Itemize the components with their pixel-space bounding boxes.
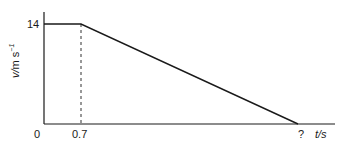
x-tick-0: 0	[34, 128, 40, 140]
x-axis-label: t/s	[315, 128, 327, 140]
y-tick-14: 14	[27, 18, 39, 30]
x-tick-0-7: 0.7	[72, 128, 87, 140]
y-axis-variable: v/	[9, 69, 21, 78]
x-tick-unknown: ?	[298, 128, 304, 140]
velocity-time-graph	[0, 0, 353, 146]
y-axis-label: v/m s−1	[8, 44, 21, 78]
y-axis-unit: m s	[9, 52, 21, 70]
y-axis-exponent: −1	[8, 44, 15, 52]
velocity-line	[44, 24, 298, 124]
